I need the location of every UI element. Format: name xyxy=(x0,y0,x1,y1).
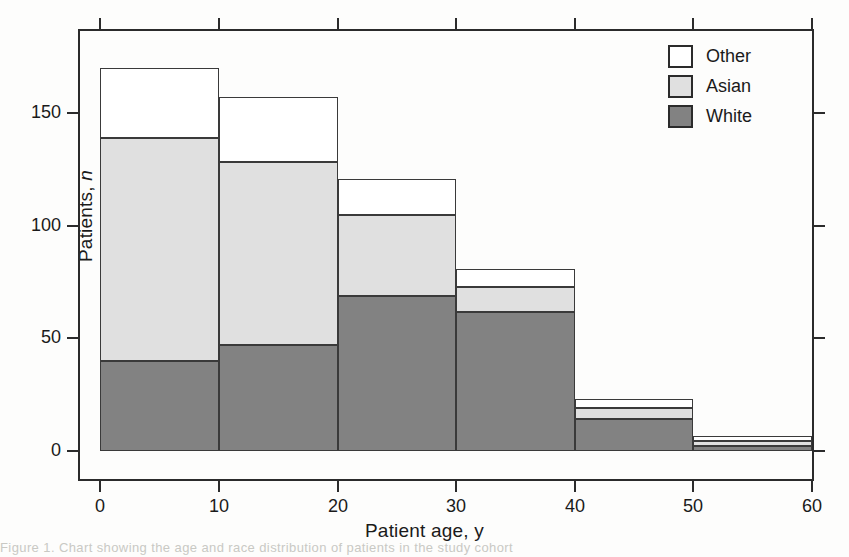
x-tick-mark xyxy=(811,481,813,492)
y-tick-label: 150 xyxy=(5,102,61,123)
x-tick-mark xyxy=(455,481,457,492)
figure-canvas: Patients, n 0 50 100 150 xyxy=(0,0,849,557)
x-tick-mark xyxy=(574,481,576,492)
y-tick-mark xyxy=(67,450,78,452)
x-tick-label: 60 xyxy=(780,496,844,517)
top-tick-50 xyxy=(692,18,694,29)
legend-swatch-asian xyxy=(668,75,693,98)
legend-item-other: Other xyxy=(668,41,798,71)
legend-item-white: White xyxy=(668,101,798,131)
right-tick-100 xyxy=(814,225,825,227)
top-tick-0 xyxy=(99,18,101,29)
y-tick-mark xyxy=(67,225,78,227)
x-tick-label: 20 xyxy=(306,496,370,517)
top-tick-30 xyxy=(455,18,457,29)
legend-swatch-other xyxy=(668,45,693,68)
top-tick-20 xyxy=(337,18,339,29)
right-tick-0 xyxy=(814,450,825,452)
legend-label-white: White xyxy=(706,106,752,127)
legend-swatch-white xyxy=(668,105,693,128)
x-tick-label: 50 xyxy=(661,496,725,517)
y-tick-mark xyxy=(67,112,78,114)
top-tick-60 xyxy=(811,18,813,29)
x-tick-mark xyxy=(218,481,220,492)
x-tick-label: 40 xyxy=(543,496,607,517)
top-tick-40 xyxy=(574,18,576,29)
legend-label-other: Other xyxy=(706,46,751,67)
right-tick-50 xyxy=(814,337,825,339)
top-tick-10 xyxy=(218,18,220,29)
legend-item-asian: Asian xyxy=(668,71,798,101)
x-tick-mark xyxy=(337,481,339,492)
right-tick-150 xyxy=(814,112,825,114)
legend: Other Asian White xyxy=(668,41,798,131)
y-tick-mark xyxy=(67,337,78,339)
y-tick-label: 0 xyxy=(5,440,61,461)
caption-bleed-text: Figure 1. Chart showing the age and race… xyxy=(0,540,849,557)
x-tick-mark xyxy=(99,481,101,492)
x-tick-mark xyxy=(692,481,694,492)
legend-label-asian: Asian xyxy=(706,76,751,97)
x-tick-label: 10 xyxy=(187,496,251,517)
x-axis-title: Patient age, y xyxy=(0,520,849,542)
y-tick-label: 50 xyxy=(5,327,61,348)
y-tick-label: 100 xyxy=(5,215,61,236)
x-tick-label: 30 xyxy=(424,496,488,517)
x-tick-label: 0 xyxy=(68,496,132,517)
